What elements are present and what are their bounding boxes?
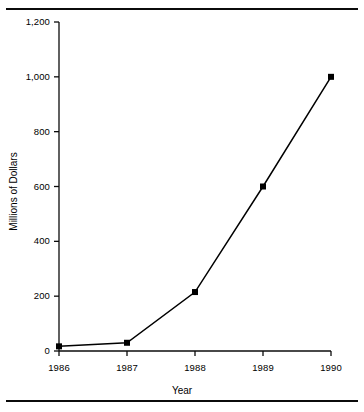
x-axis-tick-label: 1986: [48, 363, 70, 373]
x-axis-title: Year: [0, 385, 364, 396]
data-point-marker: [328, 74, 334, 80]
x-axis-tick-label: 1989: [252, 363, 274, 373]
data-point-marker: [56, 343, 62, 349]
y-axis-tick-label: 0: [0, 346, 50, 356]
data-point-marker: [260, 184, 266, 190]
y-axis-ticks: [54, 22, 59, 351]
line-chart-plot: [0, 0, 364, 412]
x-axis-tick-label: 1987: [116, 363, 138, 373]
y-axis-tick-label: 1,200: [0, 17, 50, 27]
chart-figure: 1,2001,0008006004002000 1986198719881989…: [0, 0, 364, 412]
y-axis-title: Millions of Dollars: [8, 132, 19, 252]
x-axis-tick-label: 1990: [320, 363, 342, 373]
data-point-marker: [192, 289, 198, 295]
data-line: [59, 77, 331, 347]
x-axis-ticks: [59, 351, 331, 356]
data-point-marker: [124, 340, 130, 346]
y-axis-tick-label: 1,000: [0, 72, 50, 82]
y-axis-tick-label: 200: [0, 291, 50, 301]
data-markers: [56, 74, 334, 350]
x-axis-tick-label: 1988: [184, 363, 206, 373]
